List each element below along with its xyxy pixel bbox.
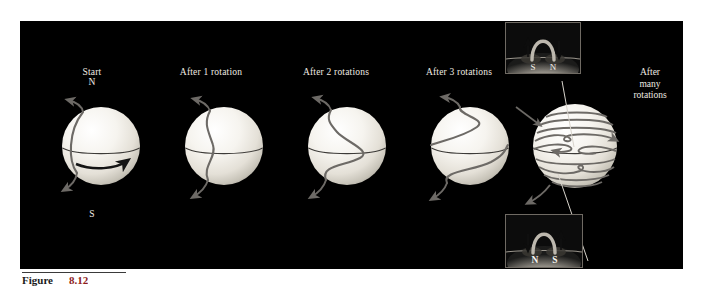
sphere-body (431, 107, 509, 185)
stage-label-rotation-3: After 3 rotations (407, 67, 511, 77)
sphere-start (38, 79, 168, 211)
sphere-body (308, 107, 386, 185)
caption-label: Figure (22, 274, 53, 286)
field-line-north-arrow (194, 99, 210, 111)
stage-label-start: Start (60, 67, 124, 77)
inset-polarity-left: S (530, 62, 535, 72)
inset-polarity-right: N (550, 62, 557, 72)
inset-polarity-right: S (552, 255, 557, 265)
sphere-body (62, 107, 140, 185)
sphere-rotation-1 (161, 79, 291, 211)
stage-label-rotation-1: After 1 rotation (163, 67, 259, 77)
field-line-south-arrow (193, 180, 208, 197)
field-line-south-arrow (311, 180, 326, 197)
caption-rule (22, 272, 126, 273)
field-line-north-arrow (68, 100, 83, 112)
inset-bottom: N S (505, 214, 583, 268)
inset-top: S N (505, 22, 581, 74)
field-line-north-arrow (443, 97, 460, 107)
sphere-body (185, 107, 263, 185)
inset-polarity-left: N (532, 255, 539, 265)
stage-label-rotation-2: After 2 rotations (284, 67, 388, 77)
caption-number: 8.12 (69, 274, 88, 286)
field-line-north-arrow (315, 98, 331, 110)
figure-caption: Figure8.12 (22, 274, 88, 292)
figure-panel: Start N S After 1 rotation After 2 rot (20, 21, 683, 269)
field-line-south-arrow (432, 183, 447, 199)
field-line-south-arrow (64, 173, 77, 190)
sphere-rotation-2 (284, 79, 414, 211)
